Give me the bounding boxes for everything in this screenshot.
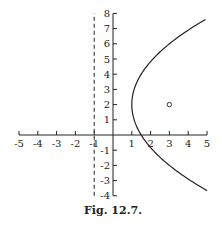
y-tick-label: 2 [104,99,110,110]
x-tick-label: -5 [14,138,24,149]
tick-labels: -5-4-3-2-112345-4-3-2-112345678 [14,8,210,201]
y-tick-label: 4 [104,69,110,80]
y-tick-label: -3 [100,175,110,186]
x-tick-label: 1 [129,138,135,149]
x-tick-label: -4 [33,138,43,149]
y-tick-label: 3 [104,84,110,95]
y-tick-label: 5 [104,54,110,65]
figure-caption: Fig. 12.7. [84,204,142,217]
y-tick-label: -2 [100,160,110,171]
y-tick-label: -1 [100,145,110,156]
y-tick-label: 7 [104,23,110,34]
y-tick-label: 6 [104,38,110,49]
focus-point [167,102,171,106]
x-tick-label: -2 [71,138,81,149]
x-tick-label: 3 [166,138,172,149]
y-tick-label: 1 [104,114,110,125]
x-tick-label: 5 [204,138,210,149]
y-tick-label: 8 [104,8,110,19]
parabola-figure: -5-4-3-2-112345-4-3-2-112345678 Fig. 12.… [0,0,222,227]
x-tick-label: -3 [52,138,62,149]
x-tick-label: 4 [185,138,191,149]
y-tick-label: -4 [100,190,110,201]
